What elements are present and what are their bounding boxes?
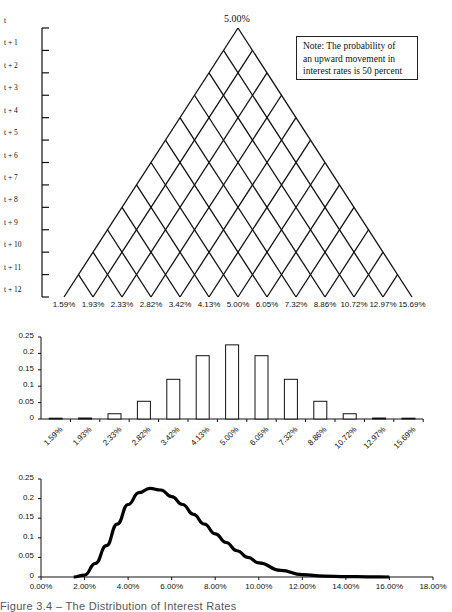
curve-x-tick-label: 10.00% (239, 582, 279, 591)
curve-y-tick-label: 0.1 (2, 532, 34, 541)
distribution-curve (74, 488, 390, 577)
curve-x-tick-label: 6.00% (152, 582, 192, 591)
curve-x-tick-label: 16.00% (369, 582, 409, 591)
curve-x-tick-label: 18.00% (413, 582, 452, 591)
curve-y-tick-label: 0.15 (2, 512, 34, 521)
curve-x-tick-label: 12.00% (282, 582, 322, 591)
curve-x-tick-label: 8.00% (195, 582, 235, 591)
curve-y-tick-label: 0.2 (2, 493, 34, 502)
curve-x-tick-label: 14.00% (326, 582, 366, 591)
curve-y-tick-label: 0 (2, 571, 34, 580)
curve-x-tick-label: 0.00% (21, 582, 61, 591)
curve-y-tick-label: 0.25 (2, 473, 34, 482)
curve-x-tick-label: 4.00% (108, 582, 148, 591)
curve-y-tick-label: 0.05 (2, 551, 34, 560)
figure-caption: Figure 3.4 – The Distribution of Interes… (0, 600, 236, 612)
curve-x-tick-label: 2.00% (65, 582, 105, 591)
